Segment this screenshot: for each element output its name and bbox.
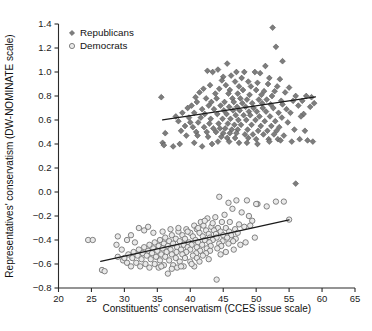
data-point-republican xyxy=(183,133,189,139)
data-point-democrat xyxy=(115,234,120,239)
data-point-republican xyxy=(270,25,276,31)
legend-label-democrats[interactable]: Democrats xyxy=(80,40,127,51)
data-point-republican xyxy=(245,127,251,133)
data-point-republican xyxy=(253,136,259,142)
data-point-republican xyxy=(190,124,196,130)
data-point-republican xyxy=(232,135,238,141)
scatter-plot: −0.8−0.6−0.4−0.20.00.20.40.60.81.01.21.4… xyxy=(0,0,372,331)
data-point-republican xyxy=(293,181,299,187)
data-point-republican xyxy=(282,90,288,96)
data-point-democrat xyxy=(132,240,137,245)
x-tick-label: 60 xyxy=(317,293,328,304)
chart-legend[interactable]: RepublicansDemocrats xyxy=(69,27,134,51)
data-point-republican xyxy=(215,67,221,73)
data-point-republican xyxy=(311,100,317,106)
data-point-democrat xyxy=(226,200,231,205)
x-axis-ticks: 20253035404550556065 xyxy=(53,288,360,304)
data-point-republican xyxy=(224,61,230,67)
data-point-republican xyxy=(233,112,239,118)
data-point-democrat xyxy=(202,218,207,223)
data-point-republican xyxy=(205,68,211,74)
data-point-democrat xyxy=(281,199,286,204)
data-point-republican xyxy=(297,136,303,142)
data-point-democrat xyxy=(102,269,107,274)
data-point-democrat xyxy=(213,215,218,220)
data-point-republican xyxy=(216,86,222,92)
data-point-democrat xyxy=(136,225,141,230)
data-point-democrat xyxy=(243,240,248,245)
data-point-democrat xyxy=(206,257,211,262)
x-axis-title: Constituents' conservatism (CCES issue s… xyxy=(102,303,311,314)
data-point-democrat xyxy=(138,264,143,269)
data-point-republican xyxy=(286,85,292,91)
data-point-democrat xyxy=(166,258,171,263)
data-point-republican xyxy=(243,117,249,123)
data-point-republican xyxy=(223,82,229,88)
data-point-republican xyxy=(289,139,295,145)
data-point-republican xyxy=(307,104,313,110)
data-point-democrat xyxy=(114,242,119,247)
data-point-republican xyxy=(295,103,301,109)
data-point-republican xyxy=(257,70,263,76)
data-point-democrat xyxy=(90,237,95,242)
data-point-republican xyxy=(273,44,279,50)
y-tick-label: −0.8 xyxy=(33,282,52,293)
data-point-democrat xyxy=(236,222,241,227)
legend-marker-democrats xyxy=(69,43,74,48)
data-point-democrat xyxy=(119,247,124,252)
y-tick-label: −0.2 xyxy=(33,210,52,221)
data-point-republican xyxy=(253,117,259,123)
data-point-republican xyxy=(205,134,211,140)
data-point-democrat xyxy=(253,201,258,206)
data-point-democrat xyxy=(252,235,257,240)
y-tick-label: 0.8 xyxy=(38,90,51,101)
data-point-republican xyxy=(247,92,253,98)
chart-figure: −0.8−0.6−0.4−0.20.00.20.40.60.81.01.21.4… xyxy=(0,0,372,331)
data-point-republican xyxy=(267,114,273,120)
x-tick-label: 20 xyxy=(53,293,64,304)
data-point-republican xyxy=(178,128,184,134)
data-point-democrat xyxy=(199,242,204,247)
data-point-republican xyxy=(235,91,241,97)
data-point-republican xyxy=(264,97,270,103)
data-point-democrat xyxy=(189,261,194,266)
data-point-democrat xyxy=(227,219,232,224)
data-point-republican xyxy=(264,128,270,134)
data-point-republican xyxy=(230,108,236,114)
data-point-republican xyxy=(272,118,278,124)
data-point-republican xyxy=(194,99,200,105)
data-point-republican xyxy=(179,110,185,116)
data-point-republican xyxy=(182,123,188,129)
data-point-republican xyxy=(158,94,164,100)
data-point-republican xyxy=(240,87,246,93)
data-point-democrat xyxy=(147,265,152,270)
data-points-democrats xyxy=(85,194,291,282)
data-point-democrat xyxy=(160,229,165,234)
data-point-republican xyxy=(239,75,245,81)
data-point-democrat xyxy=(200,253,205,258)
data-point-republican xyxy=(212,91,218,97)
data-point-republican xyxy=(291,127,297,133)
data-point-democrat xyxy=(246,213,251,218)
legend-label-republicans[interactable]: Republicans xyxy=(80,27,134,38)
data-point-democrat xyxy=(230,206,235,211)
data-point-democrat xyxy=(239,210,244,215)
data-point-republican xyxy=(218,103,224,109)
y-tick-label: 0.4 xyxy=(38,138,51,149)
x-tick-label: 65 xyxy=(350,293,361,304)
data-point-republican xyxy=(305,138,311,144)
data-point-republican xyxy=(293,93,299,99)
data-point-republican xyxy=(216,121,222,127)
data-point-republican xyxy=(257,114,263,120)
y-tick-label: 1.0 xyxy=(38,66,51,77)
data-point-republican xyxy=(274,84,280,90)
data-point-republican xyxy=(228,73,234,79)
data-point-republican xyxy=(249,100,255,106)
data-point-republican xyxy=(236,140,242,146)
data-point-republican xyxy=(209,141,215,147)
data-point-republican xyxy=(187,120,193,126)
data-point-republican xyxy=(236,84,242,90)
data-point-republican xyxy=(197,90,203,96)
data-point-republican xyxy=(162,130,168,136)
data-point-democrat xyxy=(224,235,229,240)
